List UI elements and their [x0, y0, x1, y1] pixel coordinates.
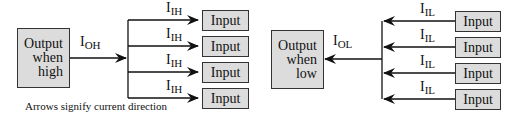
output-high-line-1: Output [24, 37, 63, 51]
input-box-low-1: Input [455, 11, 501, 32]
iih-label-3: IIH [166, 52, 182, 69]
iil-label-4: IIL [420, 79, 435, 96]
output-low-line-2: when [278, 53, 317, 67]
output-high-line-3: high [24, 65, 63, 79]
output-high-box: Output when high [17, 28, 70, 88]
caption: Arrows signify current direction [25, 100, 167, 112]
output-low-line-1: Output [278, 39, 317, 53]
iil-label-2: IIL [420, 27, 435, 44]
output-low-line-3: low [278, 67, 317, 81]
input-box-high-3: Input [202, 62, 249, 83]
iol-label: IOL [333, 33, 352, 50]
input-box-high-1: Input [202, 10, 249, 31]
input-box-low-4: Input [455, 89, 501, 110]
output-high-line-2: when [24, 51, 63, 65]
output-low-box: Output when low [271, 30, 324, 89]
iil-label-1: IIL [420, 1, 435, 18]
iih-label-2: IIH [166, 26, 182, 43]
input-box-low-3: Input [455, 63, 501, 84]
iih-label-4: IIH [166, 78, 182, 95]
iih-label-1: IIH [166, 0, 182, 17]
input-box-low-2: Input [455, 37, 501, 58]
iil-label-3: IIL [420, 53, 435, 70]
input-box-high-4: Input [202, 88, 249, 109]
ioh-label: IOH [80, 34, 101, 51]
input-box-high-2: Input [202, 36, 249, 57]
